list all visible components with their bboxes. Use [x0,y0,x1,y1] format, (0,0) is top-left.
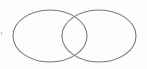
venn-diagram-canvas [0,0,147,69]
venn-set-left [13,10,87,62]
venn-diagram [0,0,147,69]
scan-artifact [1,32,2,35]
venn-set-right [62,10,136,62]
